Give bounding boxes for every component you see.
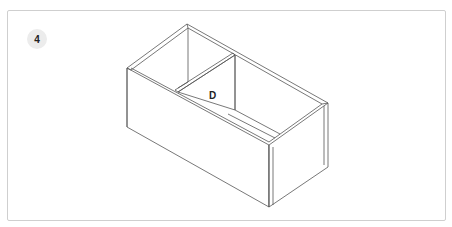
right-panel [269,103,328,207]
part-label-d: D [209,90,216,101]
box-diagram: D [0,0,452,227]
